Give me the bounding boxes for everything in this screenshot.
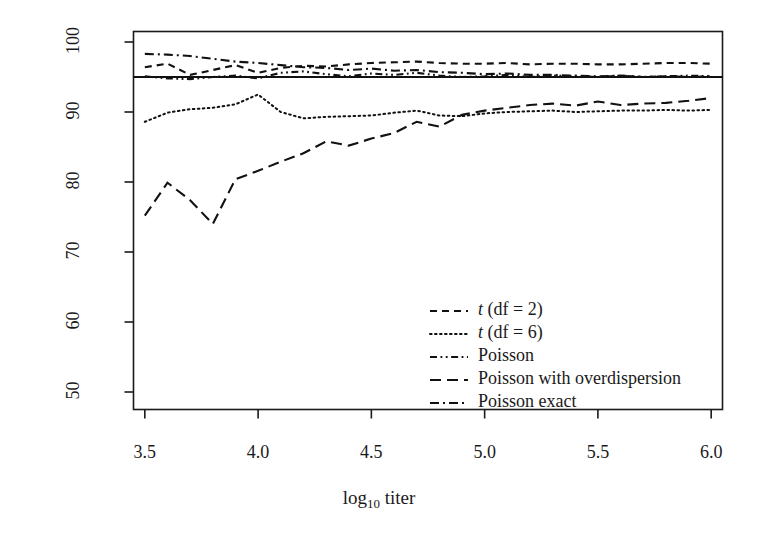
y-tick-label-70: 70: [48, 240, 98, 261]
x-tick-label-4.0: 4.0: [228, 442, 288, 463]
x-axis-ticks: [145, 410, 711, 419]
series-line-1: [145, 95, 711, 122]
legend-label-text-4: Poisson exact: [478, 391, 577, 411]
x-axis-title: log10 titer: [0, 487, 758, 512]
y-tick-label-100: 100: [48, 30, 98, 51]
legend-label-text-0: (df = 2): [483, 299, 543, 319]
plot-frame: [134, 32, 723, 410]
x-axis-title-rest: titer: [385, 487, 416, 508]
x-tick-label-6.0: 6.0: [681, 442, 741, 463]
coverage-chart-figure: log10 titer Coverage (%) 3.54.04.55.05.5…: [0, 0, 758, 533]
legend-label-2: Poisson: [478, 345, 534, 366]
legend-label-1: t (df = 6): [478, 322, 543, 343]
x-tick-label-5.0: 5.0: [455, 442, 515, 463]
legend-label-text-2: Poisson: [478, 345, 534, 365]
y-tick-label-90: 90: [48, 100, 98, 121]
x-tick-label-4.5: 4.5: [341, 442, 401, 463]
x-axis-title-subscript: 10: [367, 496, 380, 511]
legend-line-swatches: [430, 311, 468, 403]
y-tick-label-60: 60: [48, 310, 98, 331]
legend-label-text-1: (df = 6): [483, 322, 543, 342]
y-tick-label-80: 80: [48, 170, 98, 191]
legend-label-4: Poisson exact: [478, 391, 577, 412]
x-tick-label-5.5: 5.5: [568, 442, 628, 463]
data-series-group: [145, 54, 711, 224]
y-axis-ticks: [125, 42, 134, 392]
y-tick-label-50: 50: [48, 380, 98, 401]
series-line-0: [145, 62, 711, 75]
series-line-3: [145, 98, 711, 224]
legend-label-text-3: Poisson with overdispersion: [478, 368, 681, 388]
x-axis-title-base: log: [343, 487, 367, 508]
legend-label-0: t (df = 2): [478, 299, 543, 320]
x-tick-label-3.5: 3.5: [115, 442, 175, 463]
legend-label-3: Poisson with overdispersion: [478, 368, 681, 389]
